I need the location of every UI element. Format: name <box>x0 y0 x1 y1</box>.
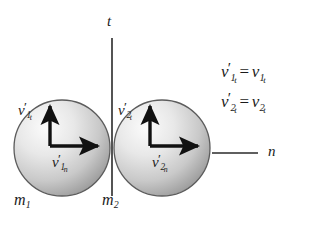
sphere-2-tangential-label: v′2t <box>118 100 132 121</box>
sphere-1-normal-label: v′1n <box>52 152 68 173</box>
mass-2-label: m2 <box>102 192 119 210</box>
equation-1: v′1t=v1t <box>221 60 266 85</box>
equation-2: v′2t=v2t <box>221 90 266 115</box>
sphere-2-normal-label: v′2n <box>152 152 168 173</box>
n-axis-label: n <box>268 144 276 159</box>
t-axis-label: t <box>107 14 111 29</box>
impact-diagram: t n v′1t v′1n v′2t v′2n m1 m2 v′1t=v1t v… <box>0 0 324 225</box>
mass-1-label: m1 <box>14 192 31 210</box>
sphere-1-tangential-label: v′1t <box>18 100 32 121</box>
diagram-canvas <box>0 0 324 225</box>
